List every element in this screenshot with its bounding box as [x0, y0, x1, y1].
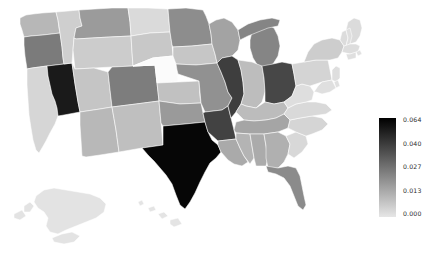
state-WY[interactable]: Wyoming: 0.012: [73, 36, 133, 69]
state-KS[interactable]: Kansas: 0.014: [157, 81, 201, 104]
state-HI[interactable]: Hawaii: 0.008: [138, 200, 182, 227]
state-FL[interactable]: Florida: 0.028: [266, 166, 306, 210]
us-map-canvas[interactable]: Washington: 0.017 Oregon: 0.03 Californi…: [0, 0, 375, 258]
colorbar-gradient: [379, 118, 396, 217]
state-MN[interactable]: Minnesota: 0.028: [168, 8, 212, 47]
state-NJ[interactable]: New Jersey: 0.008: [332, 66, 340, 82]
colorbar-tick-4: 0.000: [403, 211, 421, 217]
state-NY[interactable]: New York: 0.012: [304, 38, 344, 62]
colorbar: 0.064 0.040 0.027 0.013 0.000: [379, 118, 445, 220]
state-NM[interactable]: New Mexico: 0.015: [112, 101, 163, 152]
colorbar-tick-2: 0.027: [403, 164, 421, 170]
choropleth-figure: Washington: 0.017 Oregon: 0.03 Californi…: [0, 0, 448, 258]
state-ND[interactable]: North Dakota: 0.009: [128, 8, 170, 36]
state-CO[interactable]: Colorado: 0.03: [108, 65, 159, 107]
colorbar-tick-0: 0.064: [403, 117, 421, 123]
state-WA[interactable]: Washington: 0.017: [20, 12, 60, 37]
state-OR[interactable]: Oregon: 0.03: [24, 33, 64, 69]
colorbar-tick-1: 0.040: [403, 141, 421, 147]
us-states-map[interactable]: Washington: 0.017 Oregon: 0.03 Californi…: [0, 0, 375, 258]
state-IA[interactable]: Iowa: 0.013: [173, 44, 217, 65]
colorbar-tick-3: 0.013: [403, 188, 421, 194]
state-AK[interactable]: Alaska: 0.009: [14, 188, 106, 244]
state-OK[interactable]: Oklahoma: 0.024: [159, 101, 205, 126]
state-MT[interactable]: Montana: 0.024: [74, 8, 131, 39]
state-GA[interactable]: Georgia: 0.019: [264, 132, 290, 168]
